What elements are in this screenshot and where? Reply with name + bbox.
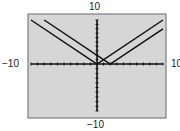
graph-screen <box>0 0 180 131</box>
